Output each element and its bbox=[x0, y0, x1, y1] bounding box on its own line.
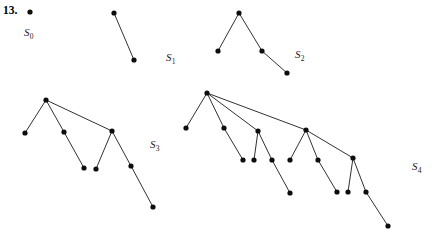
tree-node bbox=[251, 157, 256, 162]
tree-node bbox=[131, 57, 136, 62]
tree-label-subscript: 4 bbox=[418, 166, 422, 175]
tree-node bbox=[350, 155, 355, 160]
binomial-tree-s2 bbox=[215, 10, 289, 75]
tree-edge bbox=[25, 100, 46, 133]
tree-node bbox=[255, 128, 260, 133]
binomial-tree-s1 bbox=[111, 10, 136, 62]
tree-label-s0: S0 bbox=[24, 26, 33, 38]
tree-edge bbox=[258, 131, 272, 160]
node-group bbox=[27, 9, 32, 14]
tree-label-base: S bbox=[295, 48, 301, 60]
tree-edge bbox=[306, 130, 318, 160]
tree-edge bbox=[318, 160, 337, 192]
binomial-tree-s4 bbox=[183, 90, 390, 228]
tree-node bbox=[61, 129, 66, 134]
tree-label-s1: S1 bbox=[166, 51, 175, 63]
tree-edge bbox=[262, 51, 287, 73]
tree-node bbox=[109, 128, 114, 133]
tree-node bbox=[128, 163, 133, 168]
tree-node bbox=[240, 157, 245, 162]
edge-group bbox=[114, 13, 134, 60]
tree-edge bbox=[239, 13, 262, 51]
tree-label-s4: S4 bbox=[412, 160, 421, 172]
tree-label-subscript: 3 bbox=[156, 144, 160, 153]
tree-node bbox=[204, 90, 209, 95]
figure-page: 13. S0S1S2S3S4 bbox=[0, 0, 436, 240]
tree-edge bbox=[96, 131, 112, 169]
tree-node bbox=[345, 189, 350, 194]
tree-node bbox=[236, 10, 241, 15]
tree-edge bbox=[112, 131, 131, 166]
tree-edge bbox=[64, 132, 84, 168]
tree-edge bbox=[114, 13, 134, 60]
tree-edge bbox=[306, 130, 353, 158]
tree-node bbox=[363, 189, 368, 194]
tree-edge bbox=[290, 130, 306, 160]
binomial-trees-figure bbox=[0, 0, 436, 240]
binomial-tree-s0 bbox=[27, 9, 32, 14]
tree-label-subscript: 0 bbox=[30, 32, 34, 41]
tree-label-s3: S3 bbox=[150, 138, 159, 150]
tree-label-base: S bbox=[24, 26, 30, 38]
tree-edge bbox=[272, 160, 290, 193]
tree-edge bbox=[186, 93, 207, 128]
tree-node bbox=[303, 127, 308, 132]
edge-group bbox=[25, 100, 153, 207]
tree-label-base: S bbox=[166, 51, 172, 63]
tree-label-subscript: 1 bbox=[172, 57, 176, 66]
tree-node bbox=[385, 223, 390, 228]
tree-node bbox=[315, 157, 320, 162]
tree-label-base: S bbox=[150, 138, 156, 150]
tree-node bbox=[93, 166, 98, 171]
tree-node bbox=[284, 70, 289, 75]
tree-node bbox=[334, 189, 339, 194]
tree-node bbox=[215, 48, 220, 53]
edge-group bbox=[218, 13, 287, 73]
tree-node bbox=[287, 190, 292, 195]
tree-node bbox=[150, 204, 155, 209]
binomial-tree-s3 bbox=[22, 97, 155, 209]
tree-label-base: S bbox=[412, 160, 418, 172]
tree-edge bbox=[46, 100, 112, 131]
tree-edge bbox=[218, 13, 239, 51]
node-group bbox=[183, 90, 390, 228]
tree-edge bbox=[254, 131, 258, 160]
tree-node bbox=[22, 130, 27, 135]
tree-node bbox=[183, 125, 188, 130]
tree-node bbox=[221, 125, 226, 130]
tree-node bbox=[259, 48, 264, 53]
tree-label-subscript: 2 bbox=[301, 54, 305, 63]
tree-node bbox=[111, 10, 116, 15]
tree-edge bbox=[224, 128, 243, 160]
tree-edge bbox=[131, 166, 153, 207]
tree-edge bbox=[366, 192, 388, 226]
tree-node bbox=[287, 157, 292, 162]
tree-edge bbox=[348, 158, 353, 192]
tree-node bbox=[269, 157, 274, 162]
tree-edge bbox=[353, 158, 366, 192]
tree-node bbox=[27, 9, 32, 14]
node-group bbox=[22, 97, 155, 209]
tree-edge bbox=[207, 93, 258, 131]
edge-group bbox=[186, 93, 388, 226]
tree-node bbox=[43, 97, 48, 102]
tree-node bbox=[81, 165, 86, 170]
tree-edge bbox=[46, 100, 64, 132]
tree-label-s2: S2 bbox=[295, 48, 304, 60]
